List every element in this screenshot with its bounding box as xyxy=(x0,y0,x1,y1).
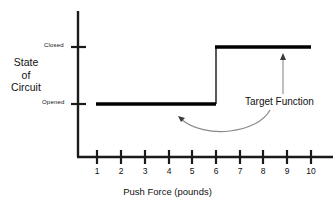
y-axis-title-line-3: Circuit xyxy=(4,81,48,94)
x-tick-label-3: 3 xyxy=(143,166,148,176)
x-tick-label-9: 9 xyxy=(285,166,290,176)
x-tick-label-6: 6 xyxy=(214,166,219,176)
figure-step-function-chart: State of Circuit Closed Opened 1 2 3 4 5… xyxy=(0,0,335,212)
y-axis-title: State of Circuit xyxy=(4,56,48,94)
y-tick-label-closed: Closed xyxy=(44,42,64,48)
x-tick-label-2: 2 xyxy=(119,166,124,176)
y-axis-title-line-1: State xyxy=(4,56,48,69)
x-tick-label-10: 10 xyxy=(306,166,315,176)
annotation-curved-arrow xyxy=(181,110,270,132)
annotation-up-arrowhead xyxy=(280,53,286,60)
x-tick-label-4: 4 xyxy=(167,166,172,176)
y-axis-title-line-2: of xyxy=(4,69,48,82)
x-tick-label-5: 5 xyxy=(190,166,195,176)
x-tick-label-1: 1 xyxy=(95,166,100,176)
x-tick-label-8: 8 xyxy=(261,166,266,176)
x-axis-title: Push Force (pounds) xyxy=(0,186,335,197)
x-tick-label-7: 7 xyxy=(238,166,243,176)
annotation-target-function-label: Target Function xyxy=(245,96,314,107)
y-tick-label-opened: Opened xyxy=(42,99,65,105)
